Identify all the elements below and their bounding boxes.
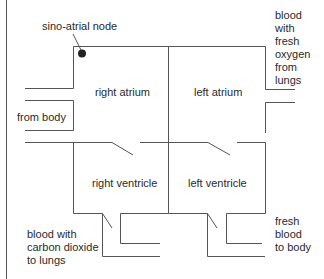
aorta-wall xyxy=(169,214,266,257)
label-right-atrium: right atrium xyxy=(95,86,150,99)
aortic-valve xyxy=(208,214,218,229)
label-sa-node: sino-atrial node xyxy=(42,20,117,33)
label-right-ventricle: right ventricle xyxy=(92,177,157,190)
pulmonary-valve xyxy=(103,214,113,229)
pulmonary-artery-inner xyxy=(121,214,169,244)
label-from-lungs: blood with fresh oxygen from lungs xyxy=(275,9,310,87)
bicuspid-valve xyxy=(208,143,230,156)
label-left-atrium: left atrium xyxy=(194,86,242,99)
sa-node-pointer xyxy=(73,34,81,50)
label-to-body: fresh blood to body xyxy=(275,215,311,254)
sa-node-dot xyxy=(78,50,86,58)
label-from-body: from body xyxy=(17,111,66,124)
label-left-ventricle: left ventricle xyxy=(188,177,247,190)
atria-top-wall xyxy=(25,47,295,90)
tricuspid-valve xyxy=(112,143,133,156)
label-to-lungs: blood with carbon dioxide to lungs xyxy=(27,228,99,267)
pulmonary-vein-wall xyxy=(266,103,296,134)
left-ventricle-wall xyxy=(227,143,266,244)
